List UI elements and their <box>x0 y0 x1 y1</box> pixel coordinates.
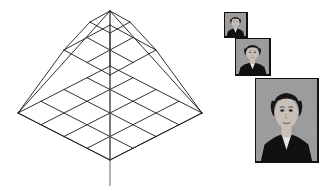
portrait-small <box>224 12 248 38</box>
portrait-medium <box>235 38 271 76</box>
figure-container <box>0 0 333 192</box>
portrait-large <box>255 78 319 163</box>
